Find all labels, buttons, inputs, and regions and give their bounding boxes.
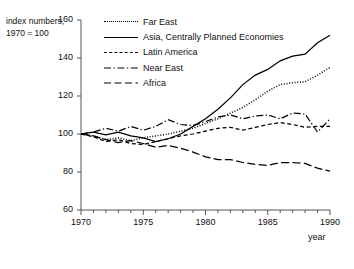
x-axis-label: year	[308, 232, 326, 242]
y-axis-tick-label: 140	[47, 52, 73, 62]
x-axis-tick-label: 1985	[251, 217, 285, 227]
x-axis-tick-label: 1990	[313, 217, 347, 227]
series-line-africa	[81, 134, 330, 171]
y-axis-tick-label: 120	[47, 90, 73, 100]
axis-lines	[81, 20, 330, 210]
y-axis-tick-label: 80	[47, 166, 73, 176]
x-axis-tick-label: 1970	[64, 217, 98, 227]
x-axis-tick-label: 1980	[189, 217, 223, 227]
y-axis-tick-label: 60	[47, 204, 73, 214]
series-line-latin-america	[81, 123, 330, 145]
chart-figure: index numbers,1970 = 100 Far EastAsia, C…	[0, 0, 354, 269]
x-axis-tick-label: 1975	[126, 217, 160, 227]
y-axis-tick-label: 160	[47, 14, 73, 24]
series-line-far-east	[81, 68, 330, 141]
y-axis-tick-label: 100	[47, 128, 73, 138]
series-line-asia-centrally-planned-economies	[81, 35, 330, 141]
